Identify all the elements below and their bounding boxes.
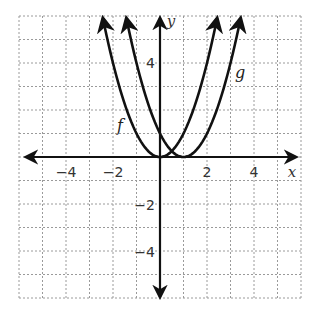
function-label-f: f [116,116,126,135]
x-tick-label: 4 [250,164,259,180]
x-tick-label: 2 [203,164,212,180]
function-label-g: g [235,63,245,82]
y-tick-label: −4 [134,244,155,260]
y-axis-label: y [166,12,176,30]
y-tick-label: −2 [134,197,155,213]
coordinate-plane: −4 −2 2 4 4 −2 −4 x y f g [0,0,311,312]
x-tick-label: −4 [56,164,77,180]
y-tick-label: 4 [146,55,155,71]
x-tick-label: −2 [103,164,124,180]
x-axis-label: x [288,163,297,181]
